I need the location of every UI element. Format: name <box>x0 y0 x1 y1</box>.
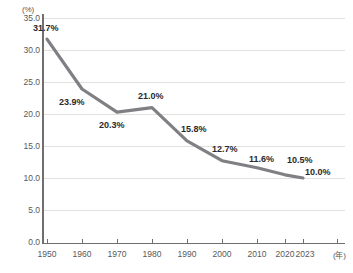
y-tick-label: 25.0 <box>14 77 40 87</box>
x-tick-label: 2020 <box>276 249 295 259</box>
y-tick-label: 5.0 <box>14 205 40 215</box>
y-tick-label: 35.0 <box>14 13 40 23</box>
x-tick-label: 1980 <box>143 249 162 259</box>
y-tick-label: 10.0 <box>14 173 40 183</box>
gridline <box>42 82 345 83</box>
x-tick-mark <box>222 239 223 243</box>
data-label: 10.0% <box>305 167 331 177</box>
x-tick-mark <box>337 239 338 243</box>
series-line <box>0 0 353 273</box>
x-tick-label: 1950 <box>38 249 57 259</box>
x-tick-mark <box>303 239 304 243</box>
data-label: 15.8% <box>181 124 207 134</box>
y-tick-label: 0.0 <box>14 237 40 247</box>
x-tick-label: 1990 <box>178 249 197 259</box>
y-axis-line <box>42 14 44 244</box>
x-tick-mark <box>187 239 188 243</box>
line-chart: (%) 35.0 30.0 25.0 20.0 15.0 10.0 5.0 0.… <box>0 0 353 273</box>
data-label: 11.6% <box>249 154 274 164</box>
x-tick-label: 1970 <box>108 249 127 259</box>
y-tick-label: 20.0 <box>14 109 40 119</box>
data-label: 23.9% <box>59 97 85 107</box>
x-axis-line <box>42 243 345 245</box>
data-label: 10.5% <box>287 155 313 165</box>
gridline <box>42 210 345 211</box>
y-tick-label: 15.0 <box>14 141 40 151</box>
gridline <box>42 146 345 147</box>
data-label: 21.0% <box>138 91 164 101</box>
gridline <box>42 178 345 179</box>
x-tick-mark <box>47 239 48 243</box>
gridline <box>42 50 345 51</box>
gridline <box>42 114 345 115</box>
data-label: 31.7% <box>33 23 59 33</box>
x-tick-label: 2010 <box>248 249 267 259</box>
x-tick-mark <box>82 239 83 243</box>
x-tick-mark <box>285 239 286 243</box>
data-label: 20.3% <box>99 120 125 130</box>
data-label: 12.7% <box>212 144 238 154</box>
x-tick-mark <box>117 239 118 243</box>
x-tick-label: 1960 <box>73 249 92 259</box>
x-tick-label: 2023 <box>296 249 315 259</box>
gridline <box>42 18 345 19</box>
y-tick-label: 30.0 <box>14 45 40 55</box>
x-tick-mark <box>152 239 153 243</box>
x-axis-unit-label: (年) <box>333 249 346 260</box>
x-tick-label: 2000 <box>213 249 232 259</box>
x-tick-mark <box>257 239 258 243</box>
